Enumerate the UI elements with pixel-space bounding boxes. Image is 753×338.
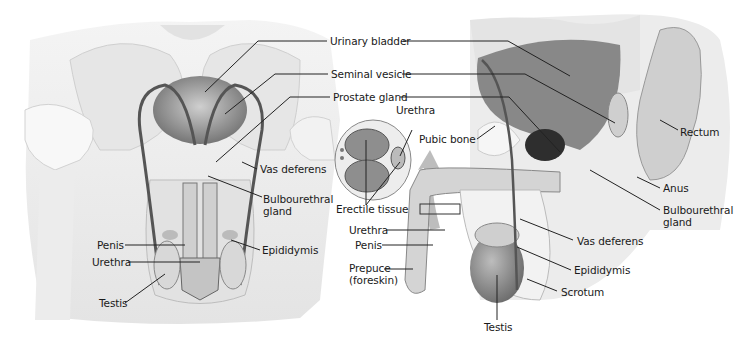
label-anus: Anus [663, 182, 689, 194]
label-bulbourethral-gland-front: Bulbourethral gland [263, 193, 333, 217]
label-bulbourethral-gland-side: Bulbourethral gland [663, 204, 733, 228]
label-urethra-cross-section: Urethra [396, 104, 435, 116]
side-view [405, 14, 730, 303]
label-urethra-side: Urethra [349, 224, 388, 236]
label-penis-front: Penis [97, 239, 124, 251]
label-seminal-vesicle: Seminal vesicle [331, 68, 411, 80]
label-epididymis-side: Epididymis [574, 264, 630, 276]
label-urinary-bladder: Urinary bladder [330, 35, 411, 47]
label-testis-front: Testis [99, 297, 127, 309]
label-vas-deferens-front: Vas deferens [260, 163, 326, 175]
label-penis-side: Penis [355, 239, 382, 251]
label-scrotum: Scrotum [561, 286, 604, 298]
anatomy-illustration [0, 0, 753, 338]
label-rectum: Rectum [680, 126, 719, 138]
reproductive-anatomy-figure: Urinary bladder Seminal vesicle Prostate… [0, 0, 753, 338]
label-prostate-gland: Prostate gland [333, 91, 408, 103]
label-testis-side: Testis [484, 321, 512, 333]
label-vas-deferens-side: Vas deferens [577, 235, 643, 247]
label-prepuce: Prepuce (foreskin) [349, 262, 398, 286]
label-urethra-front: Urethra [92, 256, 131, 268]
label-pubic-bone: Pubic bone [419, 133, 476, 145]
label-erectile-tissue: Erectile tissue [336, 203, 408, 215]
label-epididymis-front: Epididymis [262, 244, 318, 256]
